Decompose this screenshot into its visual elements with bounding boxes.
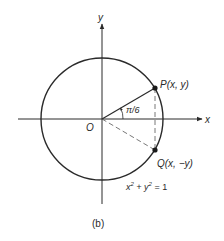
point-q-label: Q(x, −y) [157,158,193,169]
origin-label: O [86,122,94,133]
figure-caption: (b) [92,218,104,229]
unit-circle-diagram: y x O P(x, y) Q(x, −y) π/6 x2 + y2 = 1 (… [0,0,224,241]
point-q-dot [152,147,157,152]
y-axis-label: y [97,12,104,23]
x-axis-label: x [204,114,211,125]
point-p-dot [152,85,157,90]
radius-oq-dashed [102,119,155,150]
circle-equation: x2 + y2 = 1 [125,181,167,192]
angle-label: π/6 [126,105,140,115]
point-p-label: P(x, y) [160,79,189,90]
angle-arc [121,108,124,119]
